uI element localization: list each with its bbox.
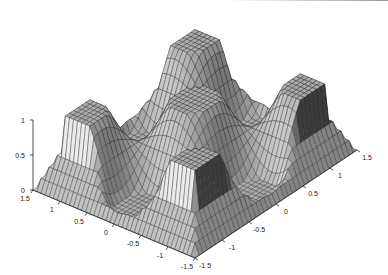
x-axis-tick: [139, 235, 141, 238]
y-axis-tick-label: 0.5: [308, 190, 318, 197]
x-axis-tick-label: -1: [157, 252, 163, 259]
y-axis-tick-label: -1: [229, 244, 235, 251]
z-axis-tick-label: 0: [21, 187, 25, 194]
x-axis-tick-label: -1.5: [181, 263, 193, 270]
y-axis-tick-label: 1.5: [362, 154, 372, 161]
y-axis-tick: [195, 258, 198, 260]
y-axis-tick: [303, 186, 306, 188]
x-axis-tick: [58, 201, 60, 204]
x-axis-tick-label: 1: [50, 206, 54, 213]
x-axis-tick: [193, 258, 195, 261]
x-axis-tick-label: 1.5: [20, 195, 30, 202]
y-axis-tick: [276, 204, 279, 206]
y-axis-tick-label: -0.5: [253, 226, 265, 233]
y-axis-tick-label: -1.5: [199, 262, 211, 269]
y-axis-tick: [330, 168, 333, 170]
x-axis-tick: [31, 190, 33, 193]
y-axis-tick: [222, 240, 225, 242]
y-axis-tick-label: 1: [338, 172, 342, 179]
x-axis-tick-label: 0.5: [74, 218, 84, 225]
x-axis-tick: [85, 213, 87, 216]
surface-plot: 10.501.510.50-0.5-1-1.5-1.5-1-0.500.511.…: [0, 0, 388, 275]
z-axis-tick-label: 1: [21, 117, 25, 124]
x-axis-tick: [112, 224, 114, 227]
y-axis-tick: [357, 150, 360, 152]
x-axis-tick: [166, 247, 168, 250]
z-axis-tick-label: 0.5: [15, 152, 25, 159]
y-axis-tick-label: 0: [284, 208, 288, 215]
x-axis-tick-label: 0: [104, 229, 108, 236]
y-axis-tick: [249, 222, 252, 224]
x-axis-tick-label: -0.5: [127, 240, 139, 247]
